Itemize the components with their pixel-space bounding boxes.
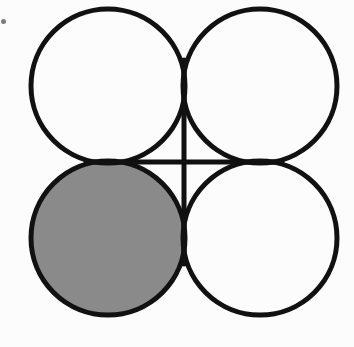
scan-speck-artifact bbox=[1, 19, 6, 24]
quatrefoil-figure-canvas: Quatrefoil four-petal figure Four equal … bbox=[0, 0, 354, 347]
quatrefoil-diagram: Quatrefoil four-petal figure Four equal … bbox=[0, 0, 354, 347]
